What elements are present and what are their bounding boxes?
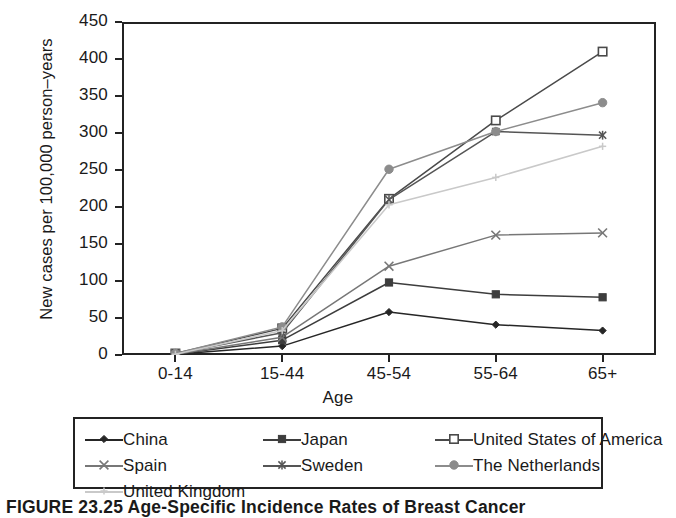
legend-marker-icon bbox=[85, 459, 123, 473]
legend-item-china[interactable]: China bbox=[85, 427, 263, 452]
y-axis-tick bbox=[115, 354, 122, 356]
y-axis-tick bbox=[115, 21, 122, 23]
data-point-marker bbox=[492, 291, 499, 298]
legend-item-sweden[interactable]: Sweden bbox=[263, 453, 435, 478]
data-point-marker bbox=[385, 279, 392, 286]
legend-marker-icon bbox=[263, 433, 301, 447]
data-point-marker bbox=[450, 434, 458, 442]
legend-marker-icon bbox=[435, 433, 473, 447]
x-axis-tick-label: 65+ bbox=[558, 364, 648, 384]
y-axis-tick-label: 450 bbox=[58, 11, 108, 31]
legend-item-label: China bbox=[123, 430, 168, 450]
y-axis-tick bbox=[115, 95, 122, 97]
y-axis-tick-label: 350 bbox=[58, 85, 108, 105]
data-point-marker bbox=[450, 460, 458, 468]
y-axis-tick-label: 50 bbox=[58, 307, 108, 327]
series-japan bbox=[172, 279, 606, 355]
legend-item-spain[interactable]: Spain bbox=[85, 453, 263, 478]
legend-box: ChinaJapanUnited States of AmericaSpainS… bbox=[73, 417, 603, 489]
data-point-marker bbox=[492, 174, 499, 181]
x-axis-tick bbox=[281, 355, 283, 362]
legend-marker-icon bbox=[85, 433, 123, 447]
y-axis-tick-label: 400 bbox=[58, 48, 108, 68]
y-axis-tick-label: 150 bbox=[58, 233, 108, 253]
legend-item-label: The Netherlands bbox=[473, 456, 600, 476]
y-axis-tick bbox=[115, 317, 122, 319]
figure-caption: FIGURE 23.25 Age-Specific Incidence Rate… bbox=[6, 497, 676, 518]
data-point-marker bbox=[598, 98, 606, 106]
x-axis-tick-label: 45-54 bbox=[344, 364, 434, 384]
data-point-marker bbox=[598, 47, 606, 55]
data-point-marker bbox=[492, 116, 500, 124]
data-point-marker bbox=[100, 487, 107, 494]
data-point-marker bbox=[100, 460, 109, 469]
data-point-marker bbox=[599, 143, 606, 150]
data-point-marker bbox=[278, 435, 285, 442]
legend-item-label: United States of America bbox=[473, 430, 663, 450]
data-point-marker bbox=[385, 165, 393, 173]
legend-item-united-states-of-america[interactable]: United States of America bbox=[435, 427, 615, 452]
y-axis-tick-label: 250 bbox=[58, 159, 108, 179]
data-point-marker bbox=[385, 262, 394, 271]
series-spain bbox=[171, 229, 607, 356]
data-point-marker bbox=[599, 294, 606, 301]
x-axis-title: Age bbox=[0, 388, 676, 408]
y-axis-tick bbox=[115, 169, 122, 171]
y-axis-tick-label: 300 bbox=[58, 122, 108, 142]
series-sweden bbox=[172, 127, 606, 355]
data-point-marker bbox=[278, 460, 285, 469]
legend-marker-icon bbox=[263, 459, 301, 473]
data-point-marker bbox=[492, 127, 500, 135]
legend-marker-icon bbox=[435, 459, 473, 473]
legend-item-the-netherlands[interactable]: The Netherlands bbox=[435, 453, 615, 478]
chart-area: New cases per 100,000 person–years 05010… bbox=[0, 0, 676, 400]
data-point-marker bbox=[100, 435, 107, 442]
y-axis-tick bbox=[115, 58, 122, 60]
data-point-marker bbox=[492, 321, 499, 328]
x-axis-tick bbox=[602, 355, 604, 362]
data-point-marker bbox=[385, 308, 392, 315]
legend-grid: ChinaJapanUnited States of AmericaSpainS… bbox=[85, 427, 597, 504]
y-axis-tick-label: 200 bbox=[58, 196, 108, 216]
x-axis-tick-label: 55-64 bbox=[451, 364, 541, 384]
x-axis-tick bbox=[174, 355, 176, 362]
series-china bbox=[172, 308, 606, 355]
x-axis-tick bbox=[388, 355, 390, 362]
y-axis-title: New cases per 100,000 person–years bbox=[37, 9, 59, 349]
y-axis-tick bbox=[115, 206, 122, 208]
legend-item-label: Spain bbox=[123, 456, 167, 476]
y-axis-tick bbox=[115, 280, 122, 282]
legend-item-label: Japan bbox=[301, 430, 348, 450]
x-axis-tick-label: 15-44 bbox=[237, 364, 327, 384]
x-axis-tick-label: 0-14 bbox=[130, 364, 220, 384]
y-axis-tick bbox=[115, 243, 122, 245]
series-united-kingdom bbox=[172, 143, 606, 355]
plot-lines bbox=[122, 22, 656, 355]
y-axis-tick bbox=[115, 132, 122, 134]
legend-item-label: Sweden bbox=[301, 456, 363, 476]
y-axis-tick-label: 100 bbox=[58, 270, 108, 290]
x-axis-tick bbox=[495, 355, 497, 362]
data-point-marker bbox=[599, 327, 606, 334]
series-the-netherlands bbox=[171, 98, 607, 355]
legend-item-japan[interactable]: Japan bbox=[263, 427, 435, 452]
y-axis-tick-label: 0 bbox=[58, 344, 108, 364]
